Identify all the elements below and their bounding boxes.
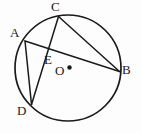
point-label-B: B [122,63,131,76]
point-label-A: A [10,26,19,39]
point-label-D: D [17,104,26,117]
geometry-figure: A B C D E O [0,0,141,133]
chord-AB [25,41,120,72]
point-label-C: C [51,0,60,13]
point-label-E: E [44,53,52,66]
point-label-O: O [55,64,64,77]
chord-CB [59,17,120,72]
chord-AD [25,41,32,105]
center-dot [67,65,71,69]
